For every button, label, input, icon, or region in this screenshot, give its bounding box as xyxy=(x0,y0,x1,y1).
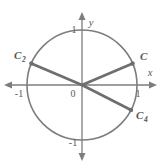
figure-canvas: 1 -1 -1 1 0 x y C C 2 C 4 xyxy=(0,0,163,165)
y-tick-label-positive-one: 1 xyxy=(72,24,77,35)
endpoint-dot-c4 xyxy=(129,108,133,112)
point-label-c: C xyxy=(140,50,148,62)
point-label-c4-base: C xyxy=(136,109,144,121)
y-axis-top-arrowhead xyxy=(79,12,86,20)
origin-label: 0 xyxy=(71,88,76,99)
x-axis-left-arrowhead xyxy=(4,82,12,89)
y-axis-bottom-arrowhead xyxy=(79,153,86,161)
unit-circle-figure: 1 -1 -1 1 0 x y C C 2 C 4 xyxy=(0,0,163,165)
endpoint-dot-c2 xyxy=(29,61,33,65)
radius-segment-c xyxy=(82,64,133,86)
point-label-c2-base: C xyxy=(14,49,22,61)
radius-segment-c4 xyxy=(82,85,131,110)
x-axis-label: x xyxy=(147,67,153,78)
x-tick-label-negative-one: -1 xyxy=(15,88,23,99)
endpoint-dot-c xyxy=(130,61,134,65)
x-axis-right-arrowhead xyxy=(149,82,157,89)
radius-segment-c2 xyxy=(31,64,82,86)
x-tick-label-positive-one: 1 xyxy=(136,88,141,99)
point-label-c2-subscript: 2 xyxy=(21,55,26,64)
point-label-c4-subscript: 4 xyxy=(143,115,148,124)
y-axis-label: y xyxy=(88,17,94,28)
y-tick-label-negative-one: -1 xyxy=(69,137,77,148)
